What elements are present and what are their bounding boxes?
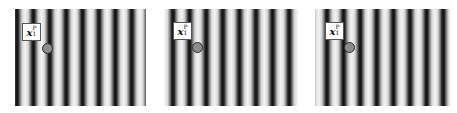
label-subscript: 1: [32, 31, 36, 37]
point-label: x P 1: [22, 23, 41, 41]
point-marker-circle-icon: [192, 42, 203, 53]
grating-panel-2: x P 1: [164, 9, 298, 106]
label-subscript: 1: [183, 30, 187, 36]
point-label: x P 1: [325, 22, 344, 40]
point-label: x P 1: [173, 22, 192, 40]
grating-panel-3: x P 1: [315, 9, 450, 106]
point-marker-circle-icon: [42, 43, 53, 54]
grating-panel-1: x P 1: [15, 9, 146, 106]
label-subscript: 1: [335, 30, 339, 36]
point-marker-circle-icon: [344, 42, 355, 53]
